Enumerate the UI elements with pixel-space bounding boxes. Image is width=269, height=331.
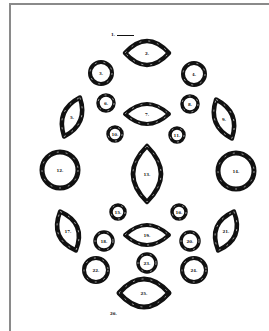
shape-8: 8.	[182, 96, 198, 112]
shape-7: 7.	[125, 104, 169, 124]
shape-15: 15.	[111, 205, 125, 219]
shape-17: 17.	[51, 208, 85, 254]
shape-label: 6.	[104, 101, 109, 106]
shape-22: 22.	[84, 258, 108, 282]
shape-label: 13.	[144, 172, 152, 177]
shape-label: 14.	[233, 169, 241, 174]
ring-diagram: 1. 2.3.4.5.6.7.8.9.10.11.12.13.14.15.16.…	[0, 0, 269, 331]
shape-label: 19.	[144, 233, 152, 238]
shape-5: 5.	[56, 94, 88, 140]
shape-4: 4.	[183, 63, 205, 85]
shape-11: 11.	[170, 128, 184, 142]
footer-label-26: 26.	[110, 311, 118, 316]
shape-label: 8.	[188, 102, 193, 107]
shape-label: 17.	[65, 229, 73, 234]
shape-2: 2.	[125, 41, 169, 65]
shape-24: 24.	[182, 258, 206, 282]
shape-label: 23.	[144, 261, 152, 266]
shape-21: 21.	[209, 208, 243, 254]
shape-9: 9.	[208, 96, 240, 142]
shape-label: 20.	[187, 239, 195, 244]
shape-label: 22.	[93, 268, 101, 273]
shape-13: 13.	[133, 146, 161, 202]
shape-label: 12.	[57, 168, 65, 173]
shape-18: 18.	[95, 232, 113, 250]
shape-label: 5.	[70, 115, 75, 120]
shape-label: 2.	[145, 51, 150, 56]
shape-label: 15.	[115, 210, 123, 215]
shape-label: 4.	[192, 72, 197, 77]
shape-16: 16.	[172, 205, 186, 219]
shape-14: 14.	[218, 153, 254, 189]
shape-label: 25.	[141, 291, 149, 296]
shape-label: 9.	[222, 117, 227, 122]
shape-label: 10.	[112, 132, 120, 137]
shape-label: 18.	[101, 239, 109, 244]
shape-19: 19.	[125, 225, 169, 245]
shape-label: 3.	[99, 71, 104, 76]
shape-12: 12.	[42, 152, 78, 188]
shape-20: 20.	[181, 232, 199, 250]
shape-label: 24.	[191, 268, 199, 273]
shape-label: 21.	[223, 229, 231, 234]
shape-10: 10.	[108, 127, 122, 141]
shape-23: 23.	[138, 254, 156, 272]
shape-6: 6.	[98, 95, 114, 111]
shape-25: 25.	[119, 279, 169, 307]
shape-label: 11.	[174, 133, 182, 138]
shape-3: 3.	[90, 62, 112, 84]
marker-label-1: 1.	[111, 32, 116, 37]
shape-label: 16.	[176, 210, 184, 215]
shape-label: 7.	[145, 112, 150, 117]
